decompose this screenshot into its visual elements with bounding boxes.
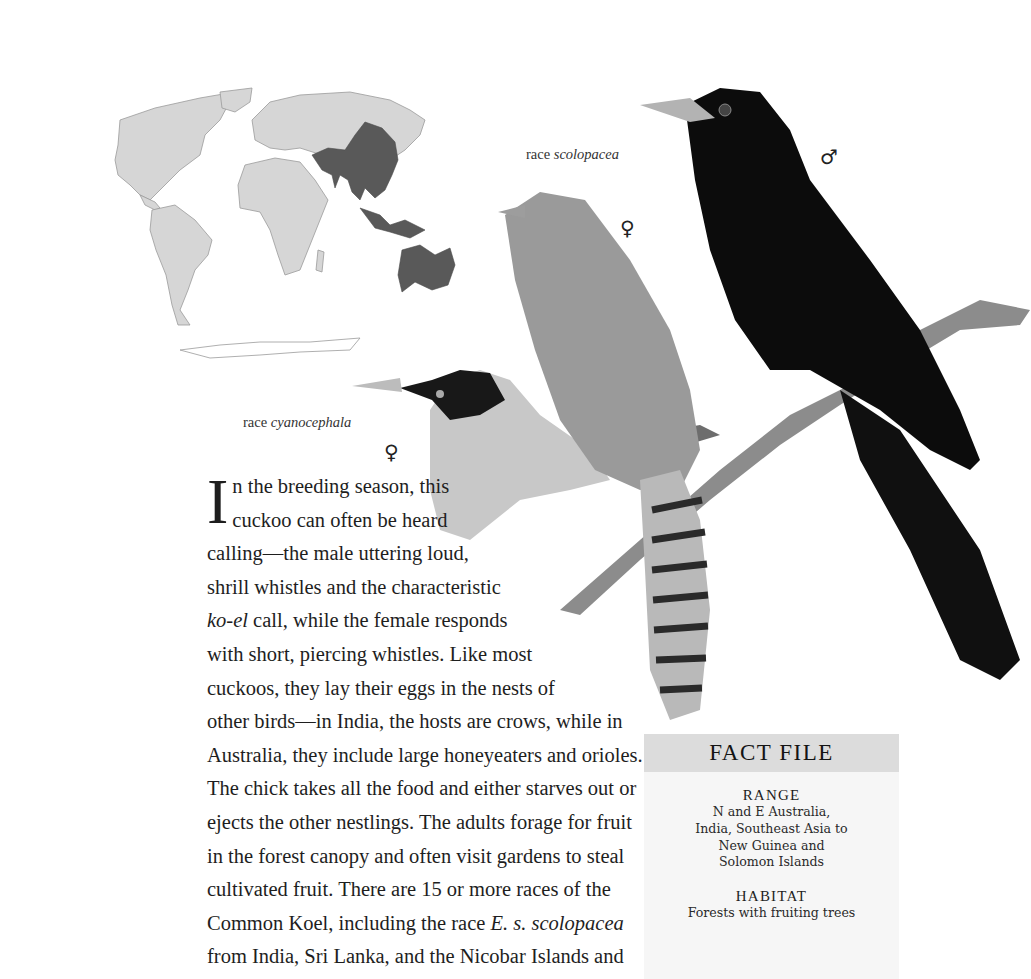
map-south-america [150, 205, 212, 325]
article-line: cultivated fruit. There are 15 or more r… [207, 873, 647, 907]
article-line: calling—the male uttering loud, [207, 537, 647, 571]
article-line: The chick takes all the food and either … [207, 772, 647, 806]
article-line: shrill whistles and the characteristic [207, 571, 647, 605]
fact-range-line: India, Southeast Asia to [644, 821, 899, 838]
map-greenland [220, 88, 252, 112]
fact-section-habitat: HABITAT Forests with fruiting trees [644, 887, 899, 922]
male-symbol-icon: ♂ [820, 147, 838, 167]
article-line: in the forest canopy and often visit gar… [207, 840, 647, 874]
map-africa [238, 158, 328, 275]
female-symbol-icon-cyanocephala: ♀ [384, 442, 399, 462]
article-line: ko-el call, while the female responds [207, 604, 647, 638]
article-line: cuckoos, they lay their eggs in the nest… [207, 672, 647, 706]
fact-heading-habitat: HABITAT [644, 887, 899, 905]
fact-range-line: Solomon Islands [644, 854, 899, 871]
article-line: ejects the other nestlings. The adults f… [207, 806, 647, 840]
caption-race-scolopacea: race scolopacea [526, 146, 619, 163]
female-symbol-icon-scolopacea: ♀ [620, 218, 635, 238]
fact-habitat-line: Forests with fruiting trees [644, 905, 899, 922]
fact-file-box: FACT FILE RANGE N and E Australia, India… [644, 734, 899, 979]
article-line: cuckoo can often be heard [207, 504, 647, 538]
fact-section-range: RANGE N and E Australia, India, Southeas… [644, 786, 899, 871]
fact-file-title: FACT FILE [644, 734, 899, 772]
article-line: Australia, they include large honeyeater… [207, 739, 647, 773]
article-body: I n the breeding season, this cuckoo can… [207, 470, 647, 974]
caption-race-cyanocephala: race cyanocephala [243, 414, 351, 431]
drop-cap: I [207, 476, 228, 534]
article-line: Common Koel, including the race E. s. sc… [207, 907, 647, 941]
fact-heading-range: RANGE [644, 786, 899, 804]
fact-range-line: New Guinea and [644, 838, 899, 855]
article-line: with short, piercing whistles. Like most [207, 638, 647, 672]
article-line: from India, Sri Lanka, and the Nicobar I… [207, 940, 647, 974]
map-antarctica [180, 338, 360, 358]
article-line: other birds—in India, the hosts are crow… [207, 705, 647, 739]
map-north-america [115, 92, 235, 200]
article-line: n the breeding season, this [207, 470, 647, 504]
fact-range-line: N and E Australia, [644, 804, 899, 821]
